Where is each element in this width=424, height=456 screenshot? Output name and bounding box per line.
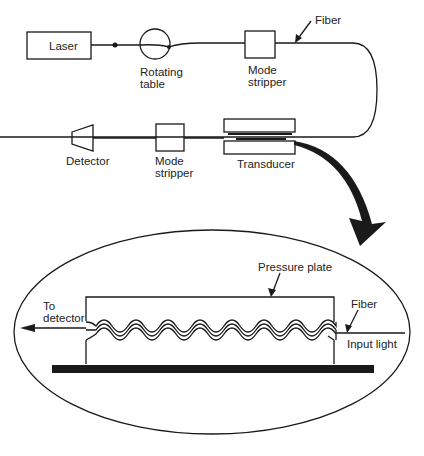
zoom-curved-arrow [294,141,386,246]
fiber-junction-dot [167,45,171,49]
input-light-label: Input light [347,338,397,350]
mode-stripper-top-label: Mode stripper [248,64,286,88]
wavy-fiber-core [86,324,405,336]
mode-stripper-bottom-label: Mode stripper [155,155,193,179]
rotating-table-label: Rotating table [140,66,183,90]
transducer-top-plate [224,119,295,132]
to-detector-label: To detector [43,300,85,324]
detector-icon [72,125,93,151]
detector-label: Detector [66,155,109,167]
pressure-plate [86,297,334,322]
fiber-loop [0,43,377,137]
wavy-fiber-top [86,320,336,332]
pressure-plate-label: Pressure plate [258,261,332,273]
to-detector-arrowhead [20,324,35,332]
fiber-detail-label: Fiber [351,298,377,310]
laser-label: Laser [49,40,78,52]
base-block [86,336,334,364]
base-bar [52,365,374,373]
fiber-optic-sensor-diagram [0,0,424,456]
fiber-junction-dot [113,43,118,48]
mode-stripper-top-box [245,31,275,58]
transducer-bottom-plate [224,141,295,154]
transducer-dashes [228,133,292,135]
transducer-dashes [236,138,286,140]
fiber-top-label: Fiber [315,14,341,26]
fiber-segment [140,43,245,47]
rotating-table-icon [140,29,170,59]
detail-ellipse [14,230,410,434]
pressure-plate-arrowhead [268,288,276,297]
transducer-label: Transducer [237,158,295,170]
